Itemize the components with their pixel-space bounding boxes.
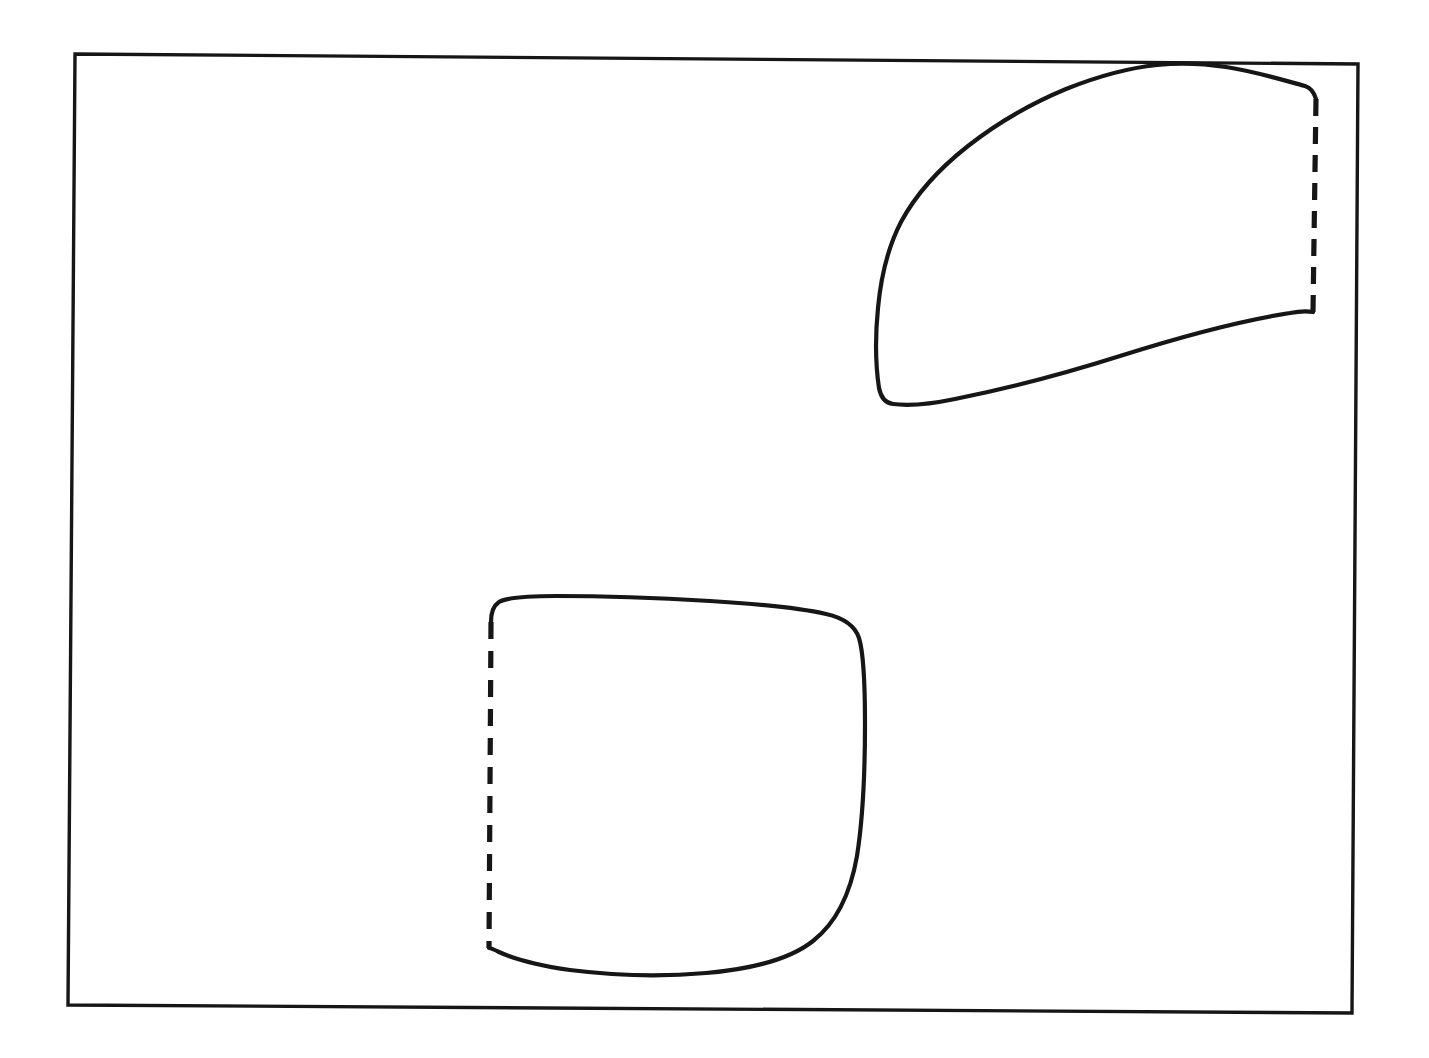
figure-canvas — [0, 0, 1429, 1058]
canvas-background — [0, 0, 1429, 1058]
diagram-svg — [0, 0, 1429, 1058]
